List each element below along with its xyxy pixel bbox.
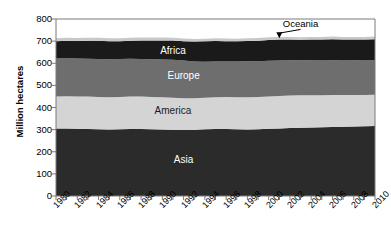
x-tick-label: 1990 <box>157 189 178 210</box>
x-tick-label: 1988 <box>136 189 157 210</box>
x-tick-label: 2002 <box>285 189 306 210</box>
x-tick-label: 1996 <box>221 189 242 210</box>
x-tick-label: 2006 <box>327 189 348 210</box>
x-tick-label: 1994 <box>200 189 221 210</box>
x-tick-label: 1992 <box>179 189 200 210</box>
stacked-area-chart: Million hectares 01002003004005006007008… <box>0 0 391 246</box>
x-axis-tick-labels: 1980198219841986198819901992199419961998… <box>0 0 391 246</box>
x-tick-label: 1986 <box>115 189 136 210</box>
x-tick-label: 1982 <box>72 189 93 210</box>
x-tick-label: 2000 <box>264 189 285 210</box>
x-tick-label: 2010 <box>370 189 391 210</box>
x-tick-label: 2004 <box>306 189 327 210</box>
x-tick-label: 1980 <box>51 189 72 210</box>
x-tick-label: 2008 <box>349 189 370 210</box>
x-tick-label: 1998 <box>242 189 263 210</box>
x-tick-label: 1984 <box>94 189 115 210</box>
